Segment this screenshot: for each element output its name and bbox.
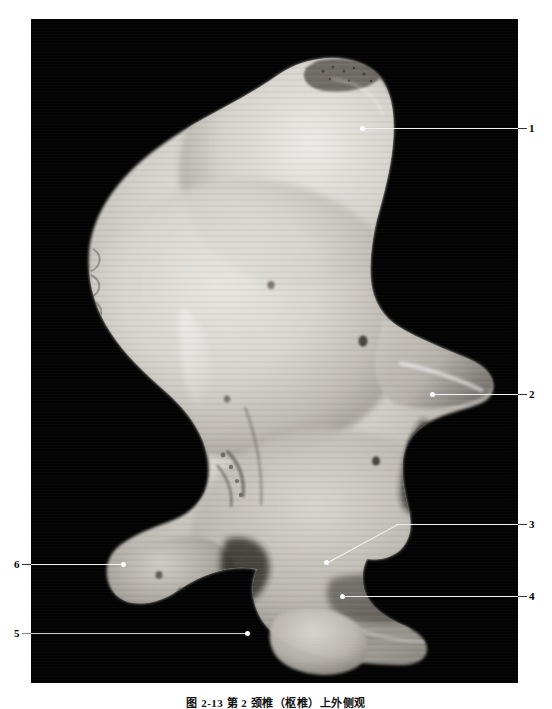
leader-dot-3 — [324, 560, 329, 565]
leader-line-2 — [434, 394, 518, 395]
leader-line-1 — [364, 128, 518, 129]
bone-shading-group — [31, 19, 518, 683]
callout-label-2: 2 — [529, 389, 535, 400]
figure-root: 1 2 3 4 5 6 图 2-13 第 2 颈椎（枢椎）上外侧观 — [0, 0, 552, 709]
leader-dot-1 — [360, 126, 365, 131]
callout-label-6: 6 — [14, 559, 20, 570]
callout-label-4: 4 — [529, 591, 535, 602]
callout-label-1: 1 — [529, 123, 535, 134]
leader-line-6 — [31, 564, 125, 565]
photo-plate — [31, 19, 518, 683]
leader-line-1-extension — [518, 128, 527, 129]
leader-dot-6 — [121, 562, 126, 567]
leader-line-3-horizontal — [396, 524, 518, 525]
callout-label-5: 5 — [14, 628, 20, 639]
leader-dot-4 — [340, 594, 345, 599]
halftone-ridge-texture — [31, 19, 518, 683]
callout-label-3: 3 — [529, 519, 535, 530]
inferior-foramen — [415, 612, 447, 626]
leader-line-3-extension — [518, 524, 527, 525]
leader-line-4-extension — [518, 596, 527, 597]
leader-dot-5 — [245, 631, 250, 636]
bone-specimen-svg — [31, 19, 518, 683]
leader-line-5 — [31, 633, 249, 634]
leader-line-6-extension — [22, 564, 31, 565]
leader-line-4 — [344, 596, 518, 597]
bone-specimen-image — [31, 19, 518, 683]
leader-line-5-extension — [22, 633, 31, 634]
leader-line-2-extension — [518, 394, 527, 395]
leader-dot-2 — [430, 392, 435, 397]
figure-caption: 图 2-13 第 2 颈椎（枢椎）上外侧观 — [0, 694, 552, 709]
